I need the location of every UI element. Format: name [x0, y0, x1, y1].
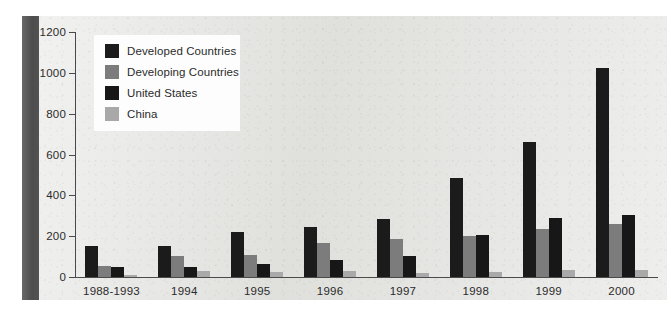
y-tick-label: 800	[46, 108, 66, 120]
bar-united-states	[476, 235, 489, 277]
bar-developing-countries	[463, 236, 476, 277]
x-tick-label: 1997	[390, 285, 416, 297]
bar-china	[562, 270, 575, 277]
legend-swatch-icon	[105, 107, 119, 121]
y-tick-mark	[69, 277, 75, 278]
legend-item-label: China	[127, 108, 158, 120]
bar-developing-countries	[171, 256, 184, 277]
bar-group: 2000	[585, 32, 658, 277]
x-axis-line	[75, 277, 658, 278]
bar-united-states	[403, 256, 416, 277]
bar-developed-countries	[377, 219, 390, 277]
legend-item: United States	[105, 85, 239, 100]
y-tick-label: 1000	[40, 67, 66, 79]
legend-item: Developed Countries	[105, 43, 239, 58]
chart-legend: Developed CountriesDeveloping CountriesU…	[94, 35, 240, 131]
bar-group: 1999	[512, 32, 585, 277]
y-tick-label: 400	[46, 189, 66, 201]
bar-group: 1998	[439, 32, 512, 277]
x-tick-label: 1996	[317, 285, 343, 297]
y-tick-label: 200	[46, 230, 66, 242]
bar-group-bars	[294, 32, 367, 277]
x-tick-label: 2000	[608, 285, 634, 297]
bar-developing-countries	[98, 266, 111, 277]
y-tick-label: 1200	[40, 26, 66, 38]
legend-items: Developed CountriesDeveloping CountriesU…	[105, 43, 239, 121]
legend-item-label: Developing Countries	[127, 66, 239, 78]
bar-developed-countries	[523, 142, 536, 277]
legend-swatch-icon	[105, 86, 119, 100]
bar-group: 1996	[294, 32, 367, 277]
bar-developed-countries	[304, 227, 317, 277]
bar-developing-countries	[390, 239, 403, 277]
chart-figure: 020040060080010001200 1988-1993199419951…	[0, 0, 671, 316]
bar-china	[489, 272, 502, 277]
bar-united-states	[549, 218, 562, 277]
bar-developing-countries	[609, 224, 622, 277]
bar-china	[416, 273, 429, 277]
bar-developed-countries	[85, 246, 98, 277]
legend-item: Developing Countries	[105, 64, 239, 79]
bar-united-states	[330, 260, 343, 277]
bar-china	[635, 270, 648, 277]
y-tick-label: 0	[59, 271, 66, 283]
bar-china	[197, 271, 210, 277]
legend-item-label: Developed Countries	[127, 45, 236, 57]
bar-group-bars	[585, 32, 658, 277]
bar-group: 1997	[367, 32, 440, 277]
x-tick-label: 1999	[535, 285, 561, 297]
bar-developing-countries	[536, 229, 549, 277]
bar-group-bars	[512, 32, 585, 277]
bar-developing-countries	[317, 243, 330, 277]
legend-item: China	[105, 106, 239, 121]
bar-china	[270, 272, 283, 277]
bar-united-states	[184, 267, 197, 277]
bar-united-states	[111, 267, 124, 277]
bar-group-bars	[367, 32, 440, 277]
bar-group-bars	[439, 32, 512, 277]
bar-developed-countries	[596, 68, 609, 277]
x-tick-label: 1995	[244, 285, 270, 297]
left-dark-band	[22, 16, 39, 300]
bar-united-states	[257, 264, 270, 277]
legend-swatch-icon	[105, 65, 119, 79]
legend-swatch-icon	[105, 44, 119, 58]
bar-developed-countries	[158, 246, 171, 277]
y-tick-label: 600	[46, 149, 66, 161]
bar-united-states	[622, 215, 635, 277]
bar-developing-countries	[244, 255, 257, 277]
x-tick-label: 1998	[463, 285, 489, 297]
legend-item-label: United States	[127, 87, 197, 99]
bar-china	[343, 271, 356, 277]
bar-china	[124, 275, 137, 277]
bar-developed-countries	[231, 232, 244, 277]
bar-developed-countries	[450, 178, 463, 277]
x-tick-label: 1994	[171, 285, 197, 297]
x-tick-label: 1988-1993	[83, 285, 140, 297]
